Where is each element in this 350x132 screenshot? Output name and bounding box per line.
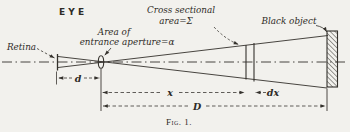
black-object-leader-arrow — [316, 26, 327, 33]
figure-caption: Fig. 1. — [166, 117, 192, 127]
cross-section-leader-arrow — [214, 27, 239, 45]
black-object-bar — [327, 31, 338, 87]
cross-section-label-line1: Cross sectional — [147, 5, 215, 15]
retina-label: Retina — [6, 42, 36, 52]
diagram-canvas: d x dx D EYE Retina Area of entrance ape… — [0, 0, 350, 132]
figure-1-diagram: d x dx D EYE Retina Area of entrance ape… — [0, 0, 350, 132]
cross-section-label-line2: area=Σ — [159, 16, 193, 26]
black-object-label: Black object — [261, 16, 317, 26]
dim-x-label: x — [166, 87, 173, 98]
aperture-label-line1: Area of — [97, 27, 132, 37]
aperture-leader-arrow — [105, 48, 111, 55]
dim-D-label: D — [192, 101, 202, 112]
retina-leader-arrow — [37, 49, 55, 59]
dim-dx-label: dx — [267, 87, 280, 98]
dim-d-label: d — [75, 73, 82, 84]
eye-label: EYE — [59, 7, 87, 17]
aperture-label-line2: entrance aperture=α — [80, 37, 175, 47]
